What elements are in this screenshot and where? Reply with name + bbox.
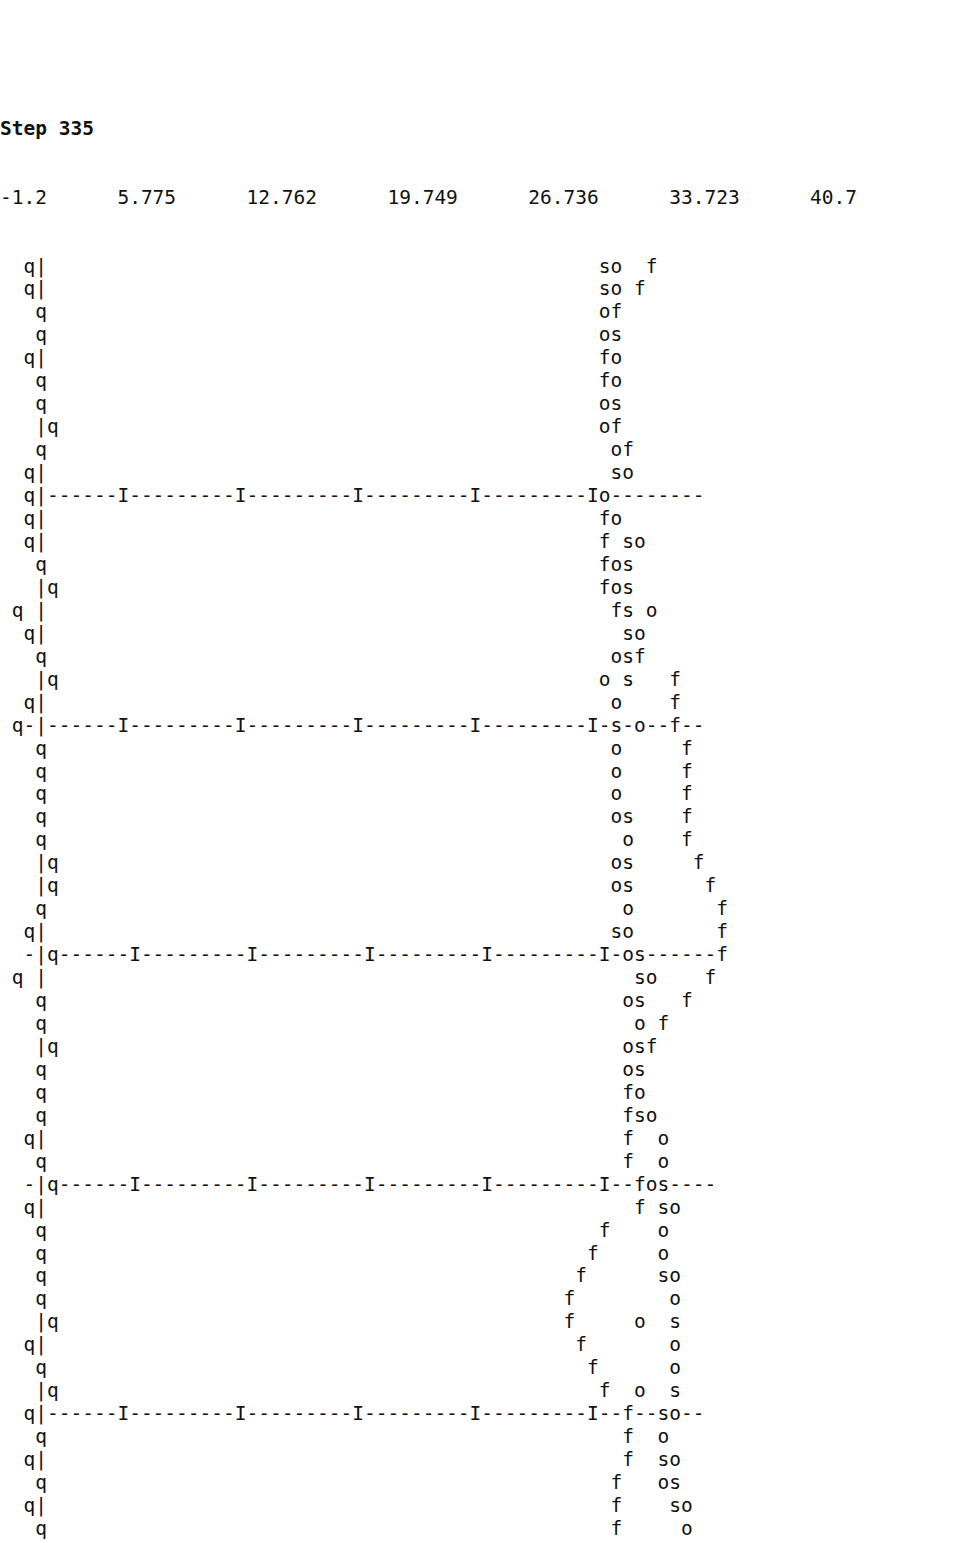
plot-gridline-row: q os f: [0, 990, 974, 1013]
plot-data-row: |q osf: [0, 1036, 974, 1059]
plot-data-row: q os: [0, 393, 974, 416]
plot-data-row: q fos: [0, 554, 974, 577]
plot-data-row: q os f: [0, 806, 974, 829]
plot-data-row: q of: [0, 439, 974, 462]
plot-data-row: q f o: [0, 1151, 974, 1174]
plot-data-row: |q f o s: [0, 1311, 974, 1334]
plot-gridline-row: q|------I---------I---------I---------I-…: [0, 485, 974, 508]
plot-data-row: q osf: [0, 646, 974, 669]
plot-data-row: q | fs o: [0, 600, 974, 623]
plot-data-row: |q f o s: [0, 1380, 974, 1403]
plot-data-row: q| f o: [0, 1334, 974, 1357]
plot-data-row: |q of: [0, 416, 974, 439]
plot-grid: Step 335 -1.2 5.775 12.762 19.749 26.736…: [0, 0, 974, 1543]
plot-data-row: q f o: [0, 1357, 974, 1380]
plot-data-row: q fo: [0, 370, 974, 393]
plot-data-row: q os: [0, 324, 974, 347]
plot-data-row: q | so f: [0, 967, 974, 990]
plot-gridline-row: q o f: [0, 738, 974, 761]
plot-data-row: q| so: [0, 623, 974, 646]
plot-data-row: |q fos: [0, 577, 974, 600]
plot-data-row: q o f: [0, 761, 974, 784]
plot-data-row: |q o s f: [0, 669, 974, 692]
plot-data-row: q f o: [0, 1426, 974, 1449]
plot-data-row: q| f o: [0, 1128, 974, 1151]
x-axis-tick-labels: -1.2 5.775 12.762 19.749 26.736 33.723 4…: [0, 187, 974, 210]
plot-gridline-row: q| f so: [0, 1495, 974, 1518]
plot-data-row: q-|------I---------I---------I---------I…: [0, 715, 974, 738]
plot-gridline-row: q f o: [0, 1243, 974, 1266]
plot-data-row: q| f so: [0, 1197, 974, 1220]
plot-data-row: q o f: [0, 783, 974, 806]
plot-data-row: q o f: [0, 829, 974, 852]
plot-data-row: q| fo: [0, 347, 974, 370]
plot-data-row: q| f so: [0, 531, 974, 554]
plot-data-row: q| fo: [0, 508, 974, 531]
plot-data-row: q o f: [0, 898, 974, 921]
plot-data-row: q fso: [0, 1105, 974, 1128]
plot-data-row: q o f: [0, 1013, 974, 1036]
plot-data-row: |q os f: [0, 852, 974, 875]
plot-data-row: q| so: [0, 462, 974, 485]
top-spacer: [0, 46, 974, 72]
plot-data-row: q| so f: [0, 256, 974, 279]
plot-data-row: -|q------I---------I---------I---------I…: [0, 1174, 974, 1197]
plot-data-row: q os: [0, 1059, 974, 1082]
plot-title: Step 335: [0, 118, 974, 141]
plot-data-row: q| f so: [0, 1449, 974, 1472]
plot-data-row: q f o: [0, 1220, 974, 1243]
plot-data-row: q| so f: [0, 278, 974, 301]
plot-data-row: q f os: [0, 1472, 974, 1495]
plot-data-row: q f o: [0, 1518, 974, 1541]
plot-data-row: q f o: [0, 1288, 974, 1311]
plot-data-row: q| so f: [0, 921, 974, 944]
plot-data-row: q of: [0, 301, 974, 324]
plot-body: q| so f q| so f q of q: [0, 256, 974, 1541]
plot-data-row: |q os f: [0, 875, 974, 898]
plot-data-row: -|q------I---------I---------I---------I…: [0, 944, 974, 967]
plot-data-row: q fo: [0, 1082, 974, 1105]
plot-data-row: q f so: [0, 1265, 974, 1288]
plot-data-row: q|------I---------I---------I---------I-…: [0, 1403, 974, 1426]
plot-data-row: q| o f: [0, 692, 974, 715]
